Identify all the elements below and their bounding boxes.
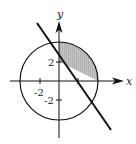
y-axis-label: y	[56, 8, 64, 21]
x-axis-label: x	[126, 75, 133, 88]
boundary-line	[37, 23, 111, 130]
y-tick-label-2: 2	[48, 57, 54, 68]
y-tick-label-neg2: -2	[44, 95, 54, 106]
coordinate-diagram: x y 2 -2 -2	[0, 0, 136, 144]
x-tick-label-neg2: -2	[34, 87, 44, 98]
